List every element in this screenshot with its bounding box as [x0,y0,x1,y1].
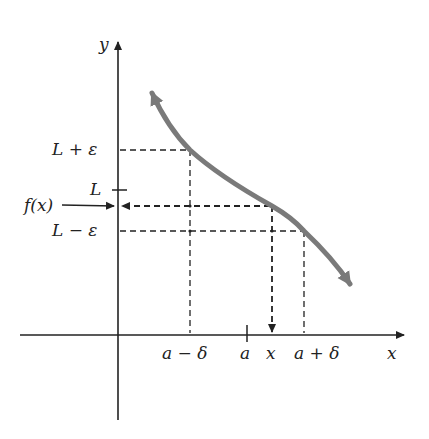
y-axis-label: y [99,36,109,53]
a-plus-delta-label: a + δ [294,345,339,362]
l-plus-epsilon-text: L + ε [52,139,97,159]
a-minus-delta-label: a − δ [162,345,207,362]
l-minus-epsilon-text: L − ε [52,220,97,240]
epsilon-delta-diagram: y x L + ε L f(x) L − ε a − δ a x a + δ [0,0,429,439]
l-label: L [90,181,101,198]
dashed-guides [120,150,304,333]
intersection-points [188,204,273,232]
l-plus-epsilon-label: L + ε [52,141,97,158]
function-curve [152,93,350,284]
f-x-label: f(x) [24,197,53,214]
fx-pointer-arrow [62,205,114,206]
x-point-label: x [266,345,276,362]
l-minus-epsilon-label: L − ε [52,222,97,239]
x-axis-label: x [387,345,397,362]
a-label: a [240,345,250,362]
